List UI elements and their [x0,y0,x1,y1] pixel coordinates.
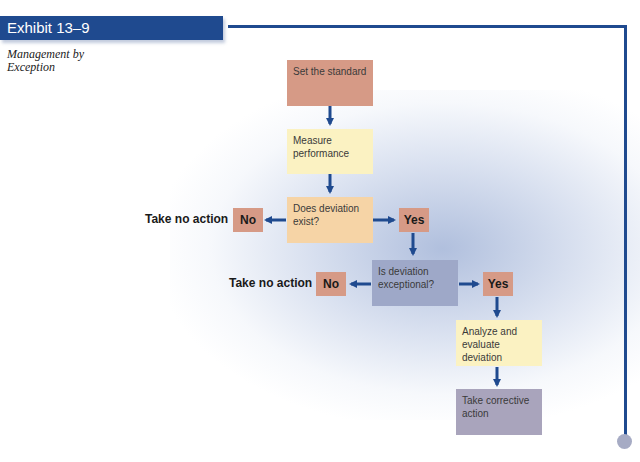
step-analyze-text: Analyze and evaluate deviation [462,326,517,363]
step-set-standard: Set the standard [287,60,373,106]
step-corrective-action: Take corrective action [456,389,542,435]
decision-deviation-exist: Does deviation exist? [287,197,373,243]
decision1-no-outcome: Take no action [145,212,228,226]
step-set-standard-text: Set the standard [293,66,366,77]
decision2-yes-tag: Yes [483,272,513,296]
decision-deviation-exceptional-text: Is deviation exceptional? [378,266,434,290]
step-measure: Measure performance [287,129,373,174]
decision2-no-tag: No [316,272,346,296]
step-corrective-action-text: Take corrective action [462,395,529,419]
step-measure-text: Measure performance [293,135,349,159]
decision2-no-outcome: Take no action [229,276,312,290]
decision-deviation-exist-text: Does deviation exist? [293,203,359,227]
step-analyze: Analyze and evaluate deviation [456,320,542,366]
decision-deviation-exceptional: Is deviation exceptional? [372,260,458,306]
decision1-yes-tag: Yes [399,208,429,232]
decision1-no-tag: No [233,208,263,232]
